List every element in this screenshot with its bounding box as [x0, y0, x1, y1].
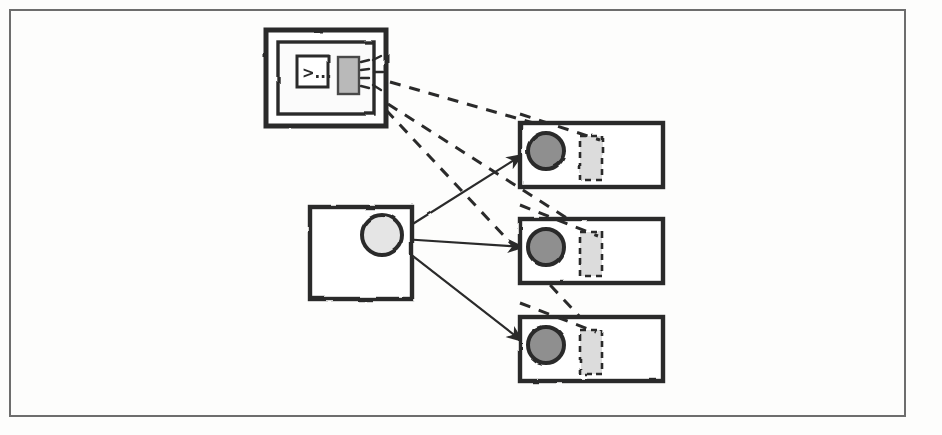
broadcast-module-body — [338, 57, 359, 94]
page-frame — [10, 10, 905, 416]
target-slot-dashed[interactable] — [580, 232, 602, 276]
diagram-svg: >... — [0, 0, 942, 435]
terminal-icon[interactable]: >... — [297, 56, 332, 87]
source-node[interactable] — [310, 207, 412, 299]
target-port-circle[interactable] — [528, 229, 564, 265]
target-port-circle[interactable] — [528, 327, 564, 363]
solid-edge-source-to-target-3 — [400, 246, 522, 341]
target-node-1[interactable] — [520, 123, 663, 187]
solid-edge-source-to-target-2 — [402, 239, 523, 247]
terminal-prompt-text: >... — [302, 64, 332, 82]
controller-node[interactable]: >... — [266, 30, 386, 126]
target-slot-dashed[interactable] — [580, 330, 602, 374]
solid-edge-source-to-target-1 — [400, 155, 522, 232]
edge-layer-dashed — [386, 82, 600, 334]
target-slot-dashed[interactable] — [580, 136, 602, 180]
edge-layer-solid — [400, 155, 523, 341]
target-node-2[interactable] — [520, 219, 663, 283]
target-node-3[interactable] — [520, 317, 663, 381]
source-port-circle[interactable] — [362, 215, 402, 255]
target-port-circle[interactable] — [528, 133, 564, 169]
diagram-canvas: >... — [0, 0, 942, 435]
